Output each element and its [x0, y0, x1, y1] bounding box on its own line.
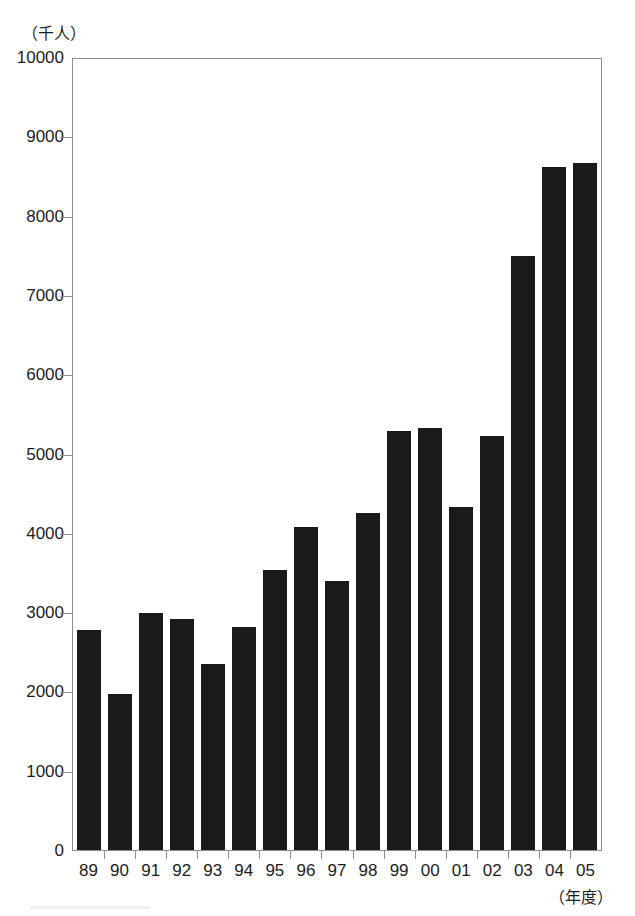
bar-rect	[356, 513, 380, 850]
bar-rect	[418, 428, 442, 850]
x-axis-tick-label: 94	[234, 861, 253, 881]
y-axis-tick-label: 10000	[17, 48, 64, 68]
bar-rect	[201, 664, 225, 850]
plot-area-frame	[72, 58, 602, 851]
bar-rect	[108, 694, 132, 850]
bar-rect	[263, 570, 287, 851]
x-axis-tick-label: 91	[141, 861, 160, 881]
scan-artifact	[30, 906, 150, 909]
x-axis-tick-mark	[197, 851, 198, 859]
bar-02	[480, 59, 504, 850]
y-axis-tick-label: 1000	[26, 762, 64, 782]
x-axis-tick-label: 89	[79, 861, 98, 881]
y-axis-tick-label: 9000	[26, 127, 64, 147]
bar-rect	[170, 619, 194, 850]
y-axis-tick-label: 5000	[26, 445, 64, 465]
x-axis-tick-mark	[353, 851, 354, 859]
x-axis-unit-label: （年度）	[549, 884, 613, 908]
x-axis-tick-label: 03	[514, 861, 533, 881]
x-axis-tick-label: 01	[452, 861, 471, 881]
y-axis-tick-label: 8000	[26, 207, 64, 227]
x-axis-tick-label: 93	[203, 861, 222, 881]
bar-98	[356, 59, 380, 850]
x-axis-tick-mark	[508, 851, 509, 859]
x-axis-tick-label: 92	[172, 861, 191, 881]
bar-rect	[387, 431, 411, 850]
bar-rect	[325, 581, 349, 850]
bar-96	[294, 59, 318, 850]
y-axis-unit-label: （千人）	[22, 20, 86, 44]
bar-03	[511, 59, 535, 850]
bar-rect	[294, 527, 318, 850]
y-axis-tick-label: 7000	[26, 286, 64, 306]
bar-chart-figure: （千人） 10000900080007000600050004000300020…	[0, 0, 635, 916]
x-axis-tick-mark	[259, 851, 260, 859]
y-axis-tick-mark	[60, 137, 72, 138]
y-axis-tick-mark	[60, 692, 72, 693]
x-axis-tick-mark	[570, 851, 571, 859]
bar-89	[77, 59, 101, 850]
bar-93	[201, 59, 225, 850]
x-axis-tick-label: 96	[296, 861, 315, 881]
y-axis-tick-label: 4000	[26, 524, 64, 544]
y-axis-tick-mark	[60, 534, 72, 535]
x-axis-tick-label-group: 8990919293949596979899000102030405	[73, 861, 601, 885]
x-axis-tick-label: 05	[576, 861, 595, 881]
y-axis-tick-label: 6000	[26, 365, 64, 385]
bar-01	[449, 59, 473, 850]
y-axis-tick-mark	[60, 613, 72, 614]
bars-layer	[73, 59, 601, 850]
y-axis-tick-label: 3000	[26, 603, 64, 623]
x-axis-tick-mark	[446, 851, 447, 859]
x-axis-tick-mark	[228, 851, 229, 859]
x-axis-tick-label: 04	[545, 861, 564, 881]
bar-91	[139, 59, 163, 850]
x-axis-tick-mark-group	[73, 851, 601, 860]
bar-99	[387, 59, 411, 850]
x-axis-tick-mark	[384, 851, 385, 859]
x-axis-tick-mark	[415, 851, 416, 859]
y-axis-tick-label: 0	[55, 841, 64, 861]
x-axis-tick-label: 99	[390, 861, 409, 881]
bar-97	[325, 59, 349, 850]
x-axis-tick-label: 00	[421, 861, 440, 881]
x-axis-tick-mark	[290, 851, 291, 859]
bar-rect	[232, 627, 256, 850]
x-axis-tick-label: 02	[483, 861, 502, 881]
x-axis-tick-mark	[104, 851, 105, 859]
y-axis-tick-label: 2000	[26, 682, 64, 702]
bar-rect	[542, 167, 566, 850]
bar-04	[542, 59, 566, 850]
x-axis-tick-label: 95	[265, 861, 284, 881]
bar-90	[108, 59, 132, 850]
y-axis-tick-mark	[60, 217, 72, 218]
x-axis-tick-mark	[135, 851, 136, 859]
bar-00	[418, 59, 442, 850]
bar-rect	[573, 163, 597, 850]
bar-rect	[511, 256, 535, 850]
x-axis-tick-mark	[477, 851, 478, 859]
bar-92	[170, 59, 194, 850]
bar-94	[232, 59, 256, 850]
bar-05	[573, 59, 597, 850]
bar-rect	[77, 630, 101, 850]
x-axis-tick-mark	[539, 851, 540, 859]
y-axis-tick-mark	[60, 772, 72, 773]
y-axis-tick-label-group: 1000090008000700060005000400030002000100…	[0, 58, 64, 851]
x-axis-tick-label: 98	[359, 861, 378, 881]
x-axis-tick-label: 90	[110, 861, 129, 881]
y-axis-tick-mark	[60, 455, 72, 456]
x-axis-tick-label: 97	[328, 861, 347, 881]
y-axis-tick-mark	[60, 296, 72, 297]
bar-rect	[480, 436, 504, 850]
y-axis-tick-mark	[60, 375, 72, 376]
bar-95	[263, 59, 287, 850]
x-axis-tick-mark	[321, 851, 322, 859]
bar-rect	[139, 613, 163, 850]
bar-rect	[449, 507, 473, 850]
x-axis-tick-mark	[166, 851, 167, 859]
